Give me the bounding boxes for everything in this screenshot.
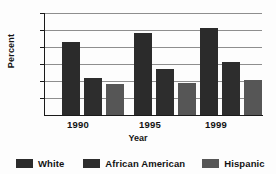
x-tick-label-1990: 1990: [48, 119, 108, 130]
y-tick-5: [40, 98, 45, 99]
x-tick-label-1999: 1999: [186, 119, 246, 130]
bar-chart-figure: Percent 30 20 10: [0, 0, 276, 174]
legend-swatch-hispanic: [202, 159, 219, 168]
legend-label-hispanic: Hispanic: [224, 158, 264, 169]
legend-item-hispanic[interactable]: Hispanic: [202, 158, 264, 169]
x-axis-line: [44, 115, 263, 116]
bar-hispanic-1995[interactable]: [178, 83, 196, 115]
bar-group-1999: [200, 13, 262, 115]
bar-white-1999[interactable]: [200, 28, 218, 115]
y-tick-25: [40, 30, 45, 31]
bar-african-american-1990[interactable]: [84, 78, 102, 115]
bar-hispanic-1990[interactable]: [106, 84, 124, 115]
bar-white-1990[interactable]: [62, 42, 80, 115]
bar-white-1995[interactable]: [134, 33, 152, 115]
bar-african-american-1995[interactable]: [156, 69, 174, 115]
chart-legend: White African American Hispanic: [0, 155, 276, 171]
y-tick-15: [40, 64, 45, 65]
plot-area: [44, 13, 262, 115]
legend-item-african-american[interactable]: African American: [83, 158, 185, 169]
x-tick-label-1995: 1995: [120, 119, 180, 130]
legend-swatch-white: [16, 159, 33, 168]
bar-hispanic-1999[interactable]: [244, 80, 262, 115]
y-axis-title: Percent: [6, 21, 16, 81]
bar-group-1990: [62, 13, 124, 115]
legend-label-african-american: African American: [105, 158, 185, 169]
x-axis-title: Year: [0, 133, 276, 143]
y-tick-20: [40, 47, 45, 48]
bar-african-american-1999[interactable]: [222, 62, 240, 115]
legend-item-white[interactable]: White: [16, 158, 64, 169]
y-tick-10: [40, 81, 45, 82]
legend-swatch-african-american: [83, 159, 100, 168]
legend-label-white: White: [38, 158, 64, 169]
bar-group-1995: [134, 13, 196, 115]
y-tick-30: [40, 13, 45, 14]
